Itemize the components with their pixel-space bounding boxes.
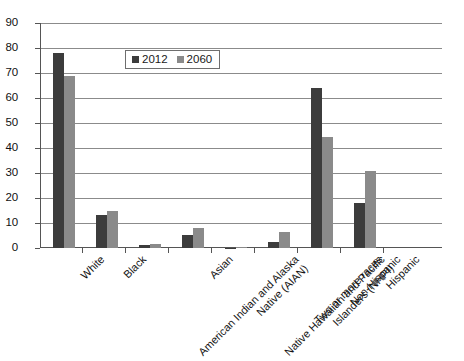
bar-2060 bbox=[150, 244, 161, 248]
bar-2012 bbox=[53, 53, 64, 248]
bar-2012 bbox=[268, 242, 279, 248]
bar-group bbox=[268, 23, 290, 248]
bar-2012 bbox=[182, 235, 193, 248]
legend-label-2012: 2012 bbox=[142, 53, 168, 65]
bar-2012 bbox=[139, 245, 150, 248]
x-axis-label-0: White bbox=[78, 253, 107, 282]
y-tick-label-60: 60 bbox=[0, 92, 18, 104]
legend-swatch-2012 bbox=[132, 56, 139, 63]
bar-2060 bbox=[322, 137, 333, 248]
legend-swatch-2060 bbox=[177, 56, 184, 63]
bar-2012 bbox=[225, 248, 236, 249]
bar-2060 bbox=[64, 76, 75, 249]
y-tick-label-10: 10 bbox=[0, 217, 18, 229]
x-tick-mark bbox=[82, 248, 83, 253]
bar-group bbox=[96, 23, 118, 248]
x-tick-mark bbox=[297, 248, 298, 253]
x-label-line: White bbox=[78, 253, 106, 281]
bar-group bbox=[225, 23, 247, 248]
bar-group bbox=[354, 23, 376, 248]
bar-2060 bbox=[107, 211, 118, 248]
bar-2012 bbox=[311, 88, 322, 248]
y-tick-label-0: 0 bbox=[0, 242, 18, 254]
y-tick-label-70: 70 bbox=[0, 67, 18, 79]
y-tick-label-20: 20 bbox=[0, 192, 18, 204]
legend-label-2060: 2060 bbox=[187, 53, 213, 65]
y-tick-label-90: 90 bbox=[0, 17, 18, 29]
x-axis-label-3: Asian bbox=[207, 253, 235, 281]
bar-2012 bbox=[354, 203, 365, 248]
legend-entry-2060: 2060 bbox=[177, 53, 213, 65]
chart-legend: 2012 2060 bbox=[125, 50, 220, 69]
y-tick-label-50: 50 bbox=[0, 117, 18, 129]
bar-2060 bbox=[365, 171, 376, 249]
x-tick-mark bbox=[168, 248, 169, 253]
legend-entry-2012: 2012 bbox=[132, 53, 168, 65]
x-tick-mark bbox=[125, 248, 126, 253]
bar-group bbox=[311, 23, 333, 248]
x-axis-label-1: Black bbox=[121, 253, 149, 281]
y-tick-label-40: 40 bbox=[0, 142, 18, 154]
bar-group bbox=[53, 23, 75, 248]
x-tick-mark bbox=[254, 248, 255, 253]
y-tick-label-80: 80 bbox=[0, 42, 18, 54]
x-label-line: Black bbox=[121, 253, 149, 281]
bar-2060 bbox=[236, 247, 247, 248]
x-tick-mark bbox=[340, 248, 341, 253]
bar-chart: 0102030405060708090 2012 2060 WhiteBlack… bbox=[0, 0, 464, 361]
bar-2060 bbox=[279, 232, 290, 248]
x-label-line: Asian bbox=[207, 253, 235, 281]
bars-layer bbox=[40, 23, 442, 248]
bar-2060 bbox=[193, 228, 204, 249]
bar-2012 bbox=[96, 215, 107, 248]
y-tick-mark-0 bbox=[35, 248, 40, 249]
x-tick-mark bbox=[211, 248, 212, 253]
y-tick-label-30: 30 bbox=[0, 167, 18, 179]
x-tick-mark bbox=[383, 248, 384, 253]
